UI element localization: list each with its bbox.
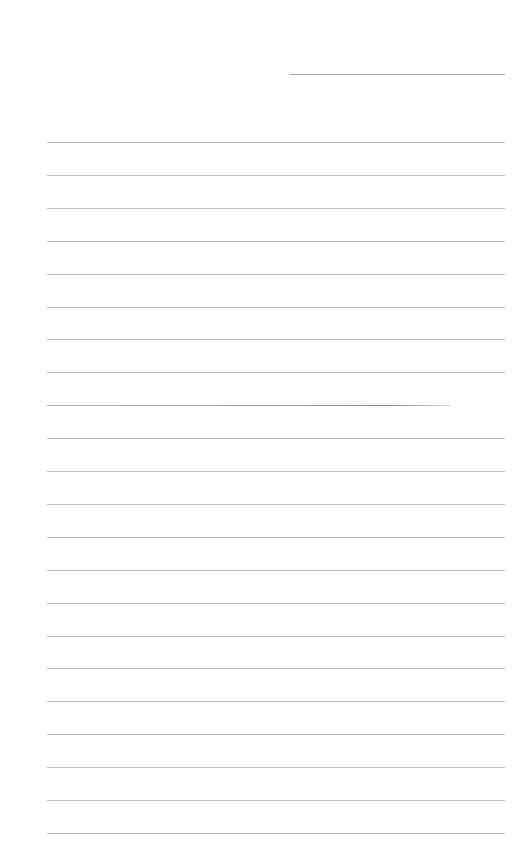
writing-line[interactable] (47, 372, 505, 373)
writing-line[interactable] (47, 142, 505, 143)
lined-sheet (0, 0, 527, 864)
writing-line[interactable] (47, 339, 505, 340)
writing-line[interactable] (47, 438, 505, 439)
writing-line[interactable] (47, 537, 505, 538)
writing-line[interactable] (47, 208, 505, 209)
writing-line[interactable] (47, 405, 450, 406)
writing-line[interactable] (47, 274, 505, 275)
writing-line[interactable] (47, 833, 505, 834)
writing-line[interactable] (47, 636, 505, 637)
writing-line[interactable] (47, 668, 505, 669)
writing-line[interactable] (47, 570, 505, 571)
writing-line[interactable] (47, 471, 505, 472)
header-blank-line[interactable] (290, 74, 505, 75)
writing-line[interactable] (47, 504, 505, 505)
writing-line[interactable] (47, 701, 505, 702)
writing-line[interactable] (47, 734, 505, 735)
writing-line[interactable] (47, 800, 505, 801)
writing-line[interactable] (47, 175, 505, 176)
writing-line[interactable] (47, 603, 505, 604)
writing-line[interactable] (47, 307, 505, 308)
writing-line[interactable] (47, 767, 505, 768)
writing-line[interactable] (47, 241, 505, 242)
